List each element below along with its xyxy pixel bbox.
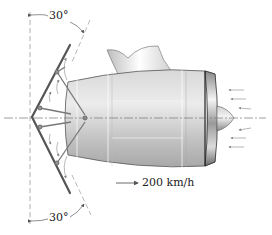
- angle-label-top: 30°: [49, 9, 69, 22]
- reverser-plate-upper: [32, 45, 70, 117]
- engine-nacelle: [65, 70, 215, 167]
- reverser-plate-lower: [32, 117, 70, 193]
- angle-reference-line-bottom: [72, 175, 91, 215]
- angle-label-bottom: 30°: [49, 211, 69, 224]
- angle-reference-line-top: [72, 20, 90, 62]
- speed-label: 200 km/h: [142, 176, 194, 189]
- thrust-reverser-diagram: 30° 30° 200 km/h: [0, 0, 272, 235]
- diagram-canvas: [0, 0, 272, 235]
- spinner-cone: [217, 106, 234, 131]
